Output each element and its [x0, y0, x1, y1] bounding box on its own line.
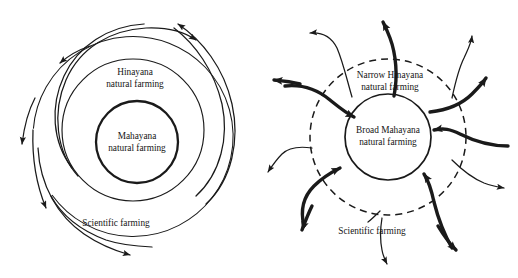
left-middle-label-line2: natural farming — [106, 79, 164, 89]
right-arrow-nne-out — [452, 36, 472, 98]
right-arrow-ne-out — [430, 78, 486, 112]
right-arrow-e-in — [434, 129, 508, 146]
right-inner-label-line2: natural farming — [359, 137, 417, 147]
right-middle-label-line1: Narrow Hinayana — [357, 70, 423, 80]
left-arrow-sw-out — [33, 130, 46, 208]
left-inner-label-line2: natural farming — [108, 143, 166, 153]
right-label-leader — [368, 211, 380, 222]
right-panel: Narrow Hinayana natural farming Broad Ma… — [268, 22, 508, 264]
right-arrow-s-out — [381, 218, 388, 264]
right-middle-label-line2: natural farming — [361, 82, 419, 92]
figure-root: Hinayana natural farming Mahayana natura… — [0, 0, 518, 278]
right-outer-label: Scientific farming — [338, 226, 406, 236]
right-arrow-w-out — [268, 147, 312, 172]
left-arrow-s-out — [38, 148, 130, 255]
left-ring-inner — [96, 101, 178, 183]
right-arrow-se-out-tip — [438, 226, 456, 250]
right-arrow-nw-out-tip — [274, 80, 300, 84]
right-inner-label-line1: Broad Mahayana — [356, 125, 420, 135]
left-panel: Hinayana natural farming Mahayana natura… — [22, 24, 235, 255]
right-arrow-ese-out — [452, 160, 504, 188]
right-arrow-se-in — [424, 174, 452, 248]
left-arrow-ne-out-inner — [174, 28, 224, 196]
right-arrow-nw-in — [285, 86, 354, 117]
left-middle-label-line1: Hinayana — [117, 67, 153, 77]
right-arrow-nnw-out — [310, 33, 352, 97]
concentric-farming-diagram: Hinayana natural farming Mahayana natura… — [0, 0, 518, 278]
left-inner-label-line1: Mahayana — [118, 131, 157, 141]
left-outer-label: Scientific farming — [82, 218, 150, 228]
